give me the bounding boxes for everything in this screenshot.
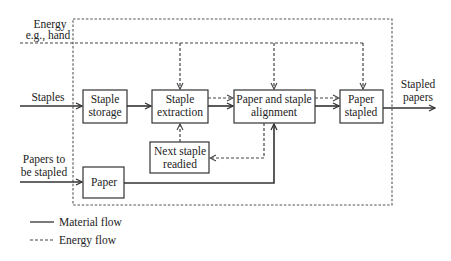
block-staple-storage: Staple storage: [83, 90, 127, 123]
svg-text:readied: readied: [163, 158, 197, 170]
energy-input-sublabel: e.g., hand: [26, 29, 71, 42]
papers-input-label-line2: be stapled: [21, 166, 68, 179]
block-staple-extraction: Staple extraction: [152, 90, 208, 123]
output-label-line2: papers: [403, 91, 434, 104]
staples-input-label: Staples: [31, 91, 65, 104]
legend-material-label: Material flow: [59, 216, 123, 228]
svg-text:Paper and staple: Paper and staple: [236, 93, 311, 106]
svg-text:Next staple: Next staple: [154, 145, 206, 158]
svg-text:Staple: Staple: [91, 93, 120, 106]
svg-text:storage: storage: [88, 106, 121, 119]
block-next-staple-readied: Next staple readied: [150, 142, 209, 173]
output-label-line1: Stapled: [401, 78, 436, 91]
stapler-function-diagram: Energy e.g., hand Staples Staple storage…: [0, 0, 451, 261]
svg-text:Paper: Paper: [91, 176, 117, 189]
svg-text:stapled: stapled: [345, 106, 378, 119]
svg-text:Staple: Staple: [166, 93, 195, 106]
legend: Material flow Energy flow: [30, 216, 123, 247]
block-paper-stapled: Paper stapled: [340, 90, 383, 123]
alignment-to-readied-energy: [210, 123, 264, 158]
block-paper: Paper: [83, 167, 124, 198]
papers-input-label-line1: Papers to: [23, 153, 66, 166]
svg-text:extraction: extraction: [157, 106, 203, 118]
legend-energy-label: Energy flow: [59, 234, 117, 247]
svg-text:Paper: Paper: [348, 93, 374, 106]
svg-text:alignment: alignment: [251, 106, 298, 119]
block-paper-and-staple-alignment: Paper and staple alignment: [234, 90, 315, 123]
